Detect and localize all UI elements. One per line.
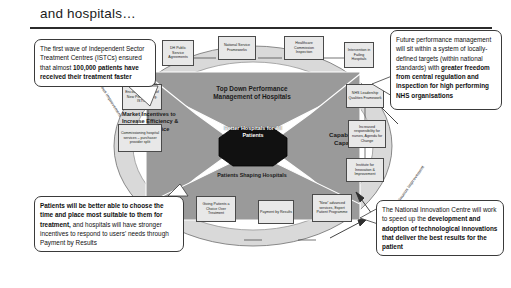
callout-performance: Future performance management will sit w… [390, 30, 502, 110]
tail-istc [128, 86, 158, 106]
nhs-hospital-reform-diagram: Top Down Performance Management of Hospi… [0, 28, 511, 288]
callout-patient-choice: Patients will be better able to choose t… [34, 196, 184, 252]
tail-choice [168, 184, 188, 196]
tail-performance [372, 76, 392, 96]
page-title: and hospitals… [40, 6, 136, 21]
callout-istc: The first wave of Independent Sector Tre… [34, 39, 156, 87]
callout-innovation-centre: The National Innovation Centre will work… [376, 200, 504, 256]
slide: and hospitals… [0, 0, 511, 288]
